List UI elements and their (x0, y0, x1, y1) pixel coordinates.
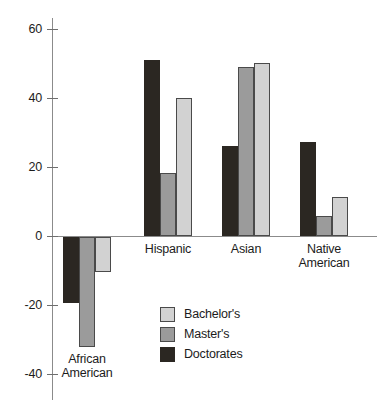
legend-label-bachelors: Bachelor's (184, 308, 240, 321)
category-label-asian: Asian (203, 242, 289, 256)
bar-asian-masters (238, 67, 254, 236)
legend-label-masters: Master's (184, 328, 229, 341)
category-label-native-american: Native American (281, 242, 367, 270)
y-tick-0 (47, 236, 58, 237)
y-tick-40 (47, 98, 58, 99)
legend-item-masters: Master's (160, 325, 242, 344)
y-tick-label-0: 0 (35, 230, 42, 242)
y-tick-60 (47, 29, 58, 30)
category-label-african-american: African American (44, 352, 130, 380)
y-tick-label-neg40: -40 (25, 368, 42, 380)
legend-label-doctorates: Doctorates (184, 348, 242, 361)
y-axis-line (52, 18, 53, 400)
y-tick-label-40: 40 (28, 92, 42, 104)
bar-hispanic-masters (160, 173, 176, 236)
plot-area: 60 40 20 0 -20 -40 African American Hisp… (0, 0, 383, 415)
bar-native-american-bachelors (332, 197, 348, 236)
legend-swatch-bachelors-icon (160, 307, 175, 322)
legend-swatch-doctorates-icon (160, 347, 175, 362)
bar-asian-bachelors (254, 63, 270, 236)
legend-item-bachelors: Bachelor's (160, 305, 242, 324)
y-tick-neg20 (47, 305, 58, 306)
bar-native-american-doctorates (300, 142, 316, 236)
legend-swatch-masters-icon (160, 327, 175, 342)
legend-item-doctorates: Doctorates (160, 345, 242, 364)
y-tick-label-60: 60 (28, 23, 42, 35)
category-label-hispanic: Hispanic (125, 242, 211, 256)
bar-hispanic-doctorates (144, 60, 160, 236)
bar-native-american-masters (316, 216, 332, 236)
legend: Bachelor's Master's Doctorates (160, 305, 242, 365)
bar-african-american-doctorates (63, 237, 79, 303)
y-tick-20 (47, 167, 58, 168)
bar-african-american-bachelors (95, 237, 111, 272)
bar-hispanic-bachelors (176, 98, 192, 236)
y-tick-label-20: 20 (28, 161, 42, 173)
bar-african-american-masters (79, 237, 95, 347)
bar-asian-doctorates (222, 146, 238, 236)
y-tick-label-neg20: -20 (25, 299, 42, 311)
bar-chart: 60 40 20 0 -20 -40 African American Hisp… (0, 0, 383, 415)
